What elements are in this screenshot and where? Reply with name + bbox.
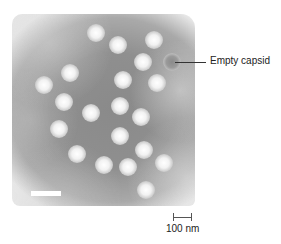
virus-particle [111, 127, 129, 145]
empty-capsid-leader-line [175, 62, 206, 63]
virus-particle [135, 141, 153, 159]
virus-particle [145, 31, 163, 49]
scale-bar-label: 100 nm [166, 223, 199, 234]
virus-particle [55, 93, 73, 111]
scale-bar-tick-left [173, 213, 174, 221]
virus-particle [119, 158, 137, 176]
empty-capsid-label: Empty capsid [210, 55, 270, 66]
virus-particle [155, 154, 173, 172]
virus-particle [132, 108, 150, 126]
virus-particle [82, 104, 100, 122]
virus-particle [148, 74, 166, 92]
virus-particle [111, 97, 129, 115]
virus-particle [134, 53, 152, 71]
scale-bar-tick-right [191, 213, 192, 221]
virus-particle [95, 156, 113, 174]
virus-particle [114, 71, 132, 89]
virus-particle [35, 76, 53, 94]
virus-particle [68, 145, 86, 163]
micrograph-scale-bar [31, 191, 61, 196]
scale-bar-line [173, 217, 192, 218]
virus-particle [50, 120, 68, 138]
virus-particle [61, 64, 79, 82]
scale-bar [173, 213, 192, 221]
virus-particle [87, 24, 105, 42]
electron-micrograph [12, 14, 195, 206]
virus-particle [137, 181, 155, 199]
virus-particle [109, 36, 127, 54]
